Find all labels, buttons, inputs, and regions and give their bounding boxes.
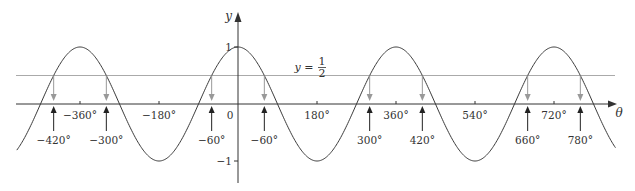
x-tick-label: 360°: [383, 109, 408, 121]
y-tick-label: −1: [217, 155, 232, 167]
half-line-label-denominator: 2: [319, 67, 326, 80]
down-arrow-head-icon: [51, 94, 57, 101]
down-arrow-head-icon: [419, 94, 425, 101]
x-tick-label: −360°: [63, 109, 97, 121]
down-arrow-head-icon: [577, 94, 583, 101]
down-arrow-head-icon: [103, 94, 109, 101]
y-axis-label: y: [224, 9, 232, 23]
up-arrow-head-icon: [525, 106, 531, 113]
up-arrow-head-icon: [209, 106, 215, 113]
solution-label: 660°: [515, 134, 540, 146]
up-arrow-head-icon: [577, 106, 583, 113]
solution-label: −60°: [198, 134, 225, 146]
down-arrow-head-icon: [261, 94, 267, 101]
down-arrow-head-icon: [525, 94, 531, 101]
down-arrow-head-icon: [367, 94, 373, 101]
up-arrow-head-icon: [419, 106, 425, 113]
down-arrow-head-icon: [209, 94, 215, 101]
solution-label: −60°: [251, 134, 278, 146]
y-tick-label: 1: [225, 41, 232, 53]
up-arrow-head-icon: [367, 106, 373, 113]
up-arrow-head-icon: [51, 106, 57, 113]
x-axis-label: θ: [615, 106, 623, 120]
solution-label: 300°: [357, 134, 382, 146]
x-tick-label: −180°: [142, 109, 176, 121]
x-tick-label: 540°: [462, 109, 487, 121]
half-line-label: y =: [294, 61, 314, 74]
up-arrow-head-icon: [103, 106, 109, 113]
cosine-graph: −360°−180°180°360°540°720°1−1yθ0y =12−42…: [0, 0, 635, 191]
solution-label: 420°: [410, 134, 435, 146]
solution-label: −300°: [89, 134, 123, 146]
origin-label: 0: [227, 109, 234, 121]
solution-label: −420°: [37, 134, 71, 146]
up-arrow-head-icon: [261, 106, 267, 113]
x-tick-label: 720°: [541, 109, 566, 121]
y-axis-arrowhead-icon: [235, 12, 242, 22]
solution-label: 780°: [568, 134, 593, 146]
x-tick-label: 180°: [304, 109, 329, 121]
